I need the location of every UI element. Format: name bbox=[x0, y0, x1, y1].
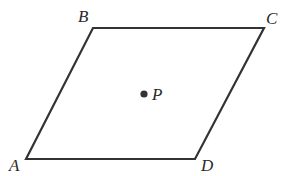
point-p-dot bbox=[140, 90, 147, 97]
vertex-label-c: C bbox=[266, 9, 278, 28]
parallelogram-diagram: B C A D P bbox=[0, 0, 290, 176]
vertex-label-a: A bbox=[8, 156, 20, 175]
vertex-label-d: D bbox=[200, 156, 214, 175]
point-label-p: P bbox=[151, 85, 162, 104]
vertex-label-b: B bbox=[78, 7, 89, 26]
